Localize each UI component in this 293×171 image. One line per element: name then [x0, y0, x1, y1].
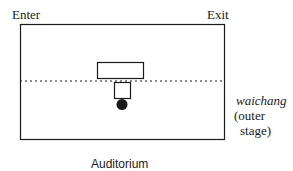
- chair-square: [115, 83, 131, 99]
- table-rectangle: [98, 63, 144, 79]
- exit-label: Exit: [207, 8, 229, 22]
- outer-stage-label-line2: stage): [240, 124, 271, 138]
- outer-stage-label-line1: (outer: [234, 109, 265, 123]
- auditorium-label: Auditorium: [91, 157, 148, 171]
- stage-diagram: [0, 0, 293, 171]
- enter-label: Enter: [12, 8, 40, 22]
- actor-position-dot: [117, 99, 128, 110]
- waichang-label: waichang: [236, 94, 287, 108]
